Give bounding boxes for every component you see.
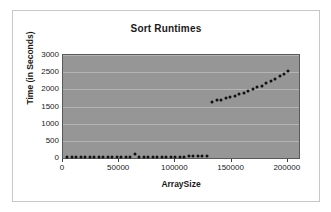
data-point — [142, 156, 145, 159]
gridline — [63, 124, 299, 125]
x-tick-mark — [287, 159, 288, 162]
y-tick-label: 1500 — [41, 101, 59, 110]
x-axis-label: ArraySize — [62, 179, 300, 189]
data-point — [192, 155, 195, 158]
data-point — [205, 155, 208, 158]
plot-area — [62, 54, 300, 159]
data-point — [265, 82, 268, 85]
data-point — [251, 88, 254, 91]
data-point — [260, 84, 263, 87]
data-point — [124, 156, 127, 159]
x-tick-mark — [118, 159, 119, 162]
x-tick-label: 100000 — [161, 163, 188, 172]
x-tick-label: 150000 — [217, 163, 244, 172]
y-tick-label: 2000 — [41, 84, 59, 93]
data-point — [129, 156, 132, 159]
gridline — [63, 107, 299, 108]
y-tick-label: 1000 — [41, 118, 59, 127]
data-point — [70, 156, 73, 159]
y-tick-label: 3000 — [41, 50, 59, 59]
data-point — [220, 98, 223, 101]
y-tick-label: 0 — [55, 153, 59, 162]
data-point — [183, 155, 186, 158]
data-point — [66, 156, 69, 159]
data-point — [138, 156, 141, 159]
data-point — [84, 156, 87, 159]
data-point — [165, 155, 168, 158]
y-axis-ticks: 050010001500200025003000 — [31, 54, 59, 159]
data-point — [224, 97, 227, 100]
data-point — [233, 94, 236, 97]
x-tick-label: 50000 — [107, 163, 129, 172]
data-point — [242, 91, 245, 94]
data-point — [201, 155, 204, 158]
data-point — [106, 156, 109, 159]
x-axis-ticks: 050000100000150000200000 — [62, 163, 300, 175]
data-point — [151, 155, 154, 158]
gridline — [63, 141, 299, 142]
data-point — [278, 74, 281, 77]
data-point — [102, 156, 105, 159]
y-tick-label: 2500 — [41, 67, 59, 76]
x-tick-mark — [231, 159, 232, 162]
data-point — [133, 152, 136, 155]
data-point — [229, 95, 232, 98]
data-point — [156, 155, 159, 158]
x-tick-mark — [62, 159, 63, 162]
data-point — [269, 80, 272, 83]
data-point — [274, 77, 277, 80]
data-point — [111, 156, 114, 159]
gridline — [63, 55, 299, 56]
data-point — [215, 99, 218, 102]
x-tick-mark — [174, 159, 175, 162]
y-tick-label: 500 — [46, 135, 59, 144]
x-tick-label: 200000 — [273, 163, 300, 172]
data-point — [286, 70, 289, 73]
data-point — [283, 72, 286, 75]
data-point — [256, 86, 259, 89]
data-point — [97, 156, 100, 159]
data-point — [169, 155, 172, 158]
data-point — [120, 156, 123, 159]
data-point — [88, 156, 91, 159]
data-point — [238, 93, 241, 96]
data-point — [75, 156, 78, 159]
data-point — [160, 155, 163, 158]
data-point — [247, 90, 250, 93]
gridline — [63, 89, 299, 90]
data-point — [211, 101, 214, 104]
gridline — [63, 72, 299, 73]
data-point — [178, 155, 181, 158]
x-tick-label: 0 — [60, 163, 64, 172]
data-point — [93, 156, 96, 159]
chart-frame: Sort Runtimes Time (in Seconds) 05001000… — [12, 10, 320, 202]
data-point — [147, 156, 150, 159]
data-point — [174, 155, 177, 158]
chart-title: Sort Runtimes — [13, 23, 319, 34]
data-point — [187, 155, 190, 158]
data-point — [79, 156, 82, 159]
data-point — [196, 155, 199, 158]
